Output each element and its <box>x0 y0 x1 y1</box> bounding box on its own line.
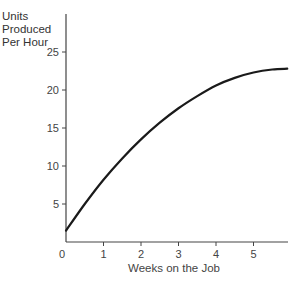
x-tick-label: 0 <box>59 248 65 260</box>
x-tick-label: 2 <box>138 248 144 260</box>
x-axis-title: Weeks on the Job <box>128 262 220 274</box>
y-tick-label: 5 <box>53 198 59 210</box>
y-tick-label: 20 <box>47 84 59 96</box>
chart-canvas: 510152025 012345 Weeks on the Job <box>0 0 294 288</box>
x-tick-label: 5 <box>250 248 256 260</box>
x-tick-label: 4 <box>213 248 219 260</box>
learning-curve-line <box>66 69 287 231</box>
x-ticks: 012345 <box>59 242 257 260</box>
y-tick-label: 10 <box>47 160 59 172</box>
y-tick-label: 25 <box>47 46 59 58</box>
y-ticks: 510152025 <box>47 46 66 210</box>
x-tick-label: 1 <box>100 248 106 260</box>
y-tick-label: 15 <box>47 122 59 134</box>
x-tick-label: 3 <box>175 248 181 260</box>
